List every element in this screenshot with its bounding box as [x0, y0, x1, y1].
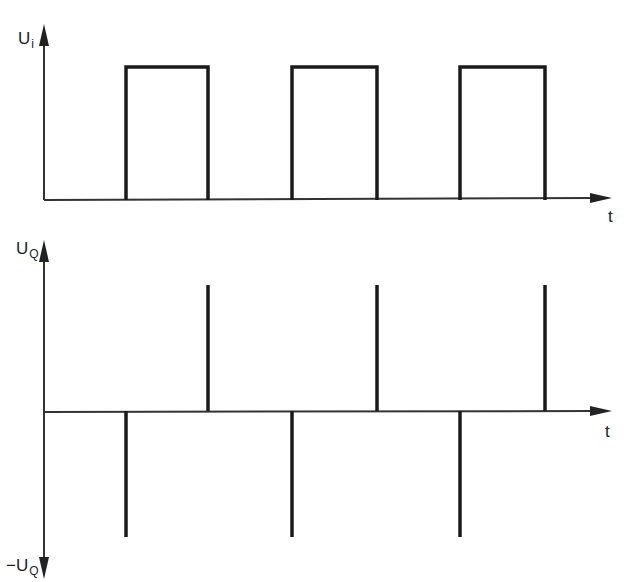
uq-y-arrow-up-icon: [39, 240, 49, 262]
uq-label: UQ: [16, 240, 39, 257]
uq-label-sub: Q: [29, 247, 38, 261]
pulse-2: [292, 67, 377, 200]
ui-y-arrow-icon: [39, 24, 49, 46]
neg-uq-label-main: −U: [6, 556, 28, 575]
ui-label-sub: i: [31, 37, 34, 51]
neg-uq-label: −UQ: [6, 557, 39, 574]
diagram-canvas: [0, 0, 637, 582]
pulse-1: [126, 67, 208, 200]
ui-x-arrow-icon: [590, 193, 612, 203]
input-pulses: [126, 67, 545, 200]
uq-label-main: U: [16, 239, 28, 258]
ui-label-main: U: [18, 29, 30, 48]
ui-label: Ui: [18, 30, 34, 47]
uq-x-arrow-icon: [590, 406, 612, 416]
t-label-bottom: t: [605, 423, 610, 440]
pulse-3: [460, 67, 545, 200]
neg-uq-label-sub: Q: [29, 564, 38, 578]
t-label-top: t: [608, 208, 613, 225]
uq-y-arrow-down-icon: [39, 557, 49, 579]
